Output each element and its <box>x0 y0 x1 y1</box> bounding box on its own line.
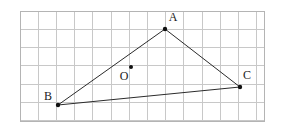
point-dot-b <box>56 103 60 107</box>
point-dot-a <box>163 27 167 31</box>
geometry-figure: ABCO <box>0 0 285 131</box>
point-dot-o <box>129 65 133 69</box>
point-dot-c <box>238 85 242 89</box>
figure-canvas: ABCO <box>0 0 285 131</box>
point-label-b: B <box>44 89 52 103</box>
point-label-o: O <box>120 69 129 83</box>
point-label-c: C <box>243 68 251 82</box>
point-label-a: A <box>169 10 178 24</box>
